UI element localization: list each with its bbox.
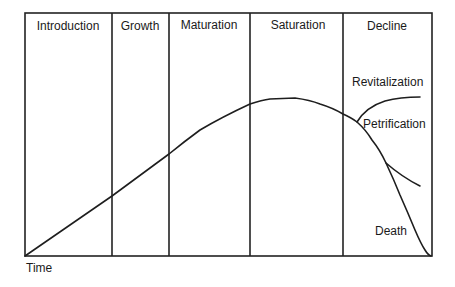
- label-revitalization: Revitalization: [352, 75, 423, 89]
- x-axis-label: Time: [26, 261, 53, 275]
- phase-label-saturation: Saturation: [271, 18, 326, 32]
- label-death: Death: [375, 224, 407, 238]
- phase-label-maturation: Maturation: [181, 18, 238, 32]
- diagram-frame: [25, 13, 432, 256]
- phase-label-growth: Growth: [121, 19, 160, 33]
- life-cycle-diagram: Introduction Growth Maturation Saturatio…: [0, 0, 455, 287]
- phase-label-decline: Decline: [367, 19, 407, 33]
- label-petrification: Petrification: [363, 117, 426, 131]
- phase-label-introduction: Introduction: [37, 19, 100, 33]
